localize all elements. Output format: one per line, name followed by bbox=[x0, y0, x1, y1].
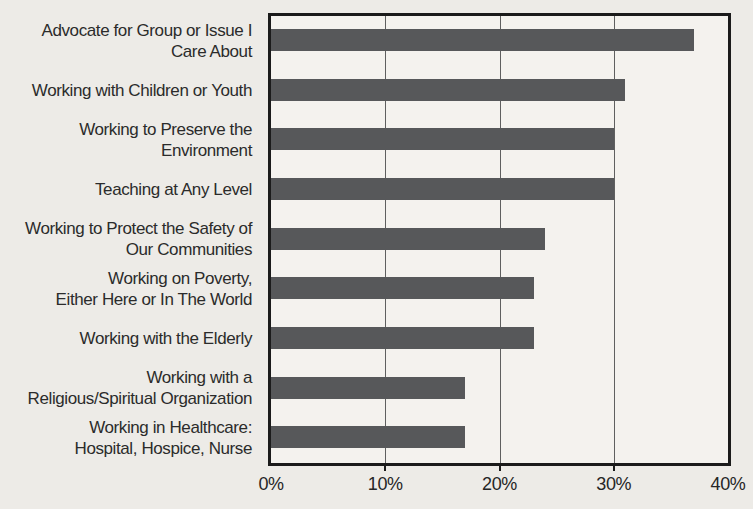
category-label-8: Working with aReligious/Spiritual Organi… bbox=[0, 364, 252, 414]
x-axis-tick-marks bbox=[271, 463, 728, 471]
tick-mark-20% bbox=[499, 463, 501, 471]
bar-2 bbox=[271, 79, 625, 101]
x-tick-label-0%: 0% bbox=[258, 474, 283, 495]
x-tick-label-20%: 20% bbox=[482, 474, 517, 495]
category-label-4: Teaching at Any Level bbox=[0, 165, 252, 215]
category-label-5: Working to Protect the Safety ofOur Comm… bbox=[0, 215, 252, 265]
bar-3 bbox=[271, 128, 614, 150]
category-label-line: Environment bbox=[161, 140, 252, 161]
category-label-9: Working in Healthcare:Hospital, Hospice,… bbox=[0, 413, 252, 463]
category-label-line: Our Communities bbox=[126, 239, 252, 260]
category-label-6: Working on Poverty,Either Here or In The… bbox=[0, 264, 252, 314]
category-label-3: Working to Preserve theEnvironment bbox=[0, 115, 252, 165]
category-label-line: Working with Children or Youth bbox=[32, 80, 252, 101]
category-label-line: Working in Healthcare: bbox=[89, 417, 252, 438]
x-tick-label-30%: 30% bbox=[596, 474, 631, 495]
bar-7 bbox=[271, 327, 534, 349]
scanned-bar-chart-page: Advocate for Group or Issue ICare AboutW… bbox=[0, 0, 753, 509]
category-label-line: Advocate for Group or Issue I bbox=[42, 20, 252, 41]
bar-6 bbox=[271, 277, 534, 299]
bar-8 bbox=[271, 377, 465, 399]
category-label-line: Working to Preserve the bbox=[79, 119, 252, 140]
x-tick-label-40%: 40% bbox=[711, 474, 746, 495]
plot-area bbox=[268, 13, 731, 466]
category-label-line: Working to Protect the Safety of bbox=[25, 218, 252, 239]
category-labels: Advocate for Group or Issue ICare AboutW… bbox=[0, 16, 258, 463]
bar-9 bbox=[271, 426, 465, 448]
category-label-line: Religious/Spiritual Organization bbox=[28, 388, 252, 409]
category-label-line: Teaching at Any Level bbox=[95, 179, 252, 200]
category-label-1: Advocate for Group or Issue ICare About bbox=[0, 16, 252, 66]
x-axis-labels: 0%10%20%30%40% bbox=[271, 474, 728, 498]
tick-mark-10% bbox=[384, 463, 386, 471]
category-label-line: Either Here or In The World bbox=[56, 289, 252, 310]
bar-4 bbox=[271, 178, 614, 200]
category-label-2: Working with Children or Youth bbox=[0, 66, 252, 116]
category-label-7: Working with the Elderly bbox=[0, 314, 252, 364]
x-tick-label-10%: 10% bbox=[368, 474, 403, 495]
category-label-line: Working with the Elderly bbox=[80, 328, 252, 349]
category-label-line: Hospital, Hospice, Nurse bbox=[75, 438, 252, 459]
bar-5 bbox=[271, 228, 545, 250]
tick-mark-30% bbox=[613, 463, 615, 471]
category-label-line: Care About bbox=[171, 41, 252, 62]
category-label-line: Working with a bbox=[146, 367, 252, 388]
bar-1 bbox=[271, 29, 694, 51]
category-label-line: Working on Poverty, bbox=[108, 268, 252, 289]
